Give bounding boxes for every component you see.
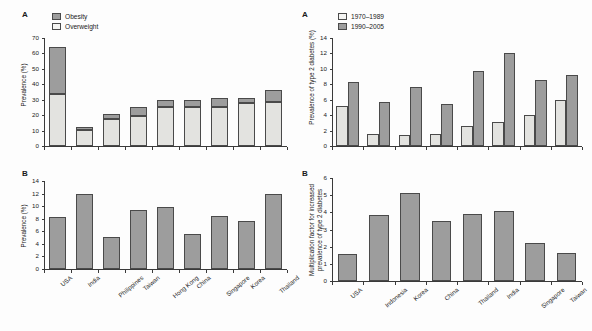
y-axis-tick-label: 12 — [308, 49, 327, 56]
bar — [504, 53, 516, 146]
y-axis-tick-label: 60 — [20, 49, 39, 56]
bar — [400, 193, 419, 281]
y-axis-label-right-a: Prevalence of type 2 diabetes (%) — [308, 10, 316, 145]
legend-item: 1990–2005 — [338, 21, 384, 31]
bar — [430, 134, 442, 146]
bar — [103, 237, 120, 269]
x-axis-tick — [71, 270, 72, 273]
x-axis-tick — [551, 147, 552, 150]
x-axis-tick — [287, 147, 288, 150]
legend-swatch-icon — [338, 23, 347, 30]
bar — [535, 80, 547, 146]
bar — [461, 126, 473, 146]
x-axis-category-label: Korea — [248, 274, 265, 290]
bar — [410, 87, 422, 146]
bar — [338, 254, 357, 281]
legend-swatch-icon — [52, 13, 61, 20]
x-axis-tick — [332, 147, 333, 150]
bar-segment — [49, 94, 67, 146]
x-axis-tick — [363, 282, 364, 285]
legend-label: Obesity — [65, 13, 87, 20]
y-axis-tick — [42, 69, 45, 70]
x-axis-tick — [551, 282, 552, 285]
bar-segment — [130, 107, 148, 115]
x-axis-tick — [457, 282, 458, 285]
y-axis-tick-label: 10 — [20, 202, 39, 209]
y-axis-tick — [42, 206, 45, 207]
y-axis-tick — [330, 247, 333, 248]
bar — [184, 234, 201, 269]
bar — [525, 243, 544, 281]
bar-segment — [238, 103, 256, 146]
bar — [524, 115, 536, 146]
y-axis-tick-label: 2 — [308, 243, 327, 250]
legend-label: Overweight — [65, 23, 98, 30]
x-axis-category-label: India — [86, 274, 101, 288]
bar — [399, 135, 411, 146]
y-axis-tick — [42, 53, 45, 54]
bar-segment — [49, 47, 67, 93]
y-axis-tick-label: 5 — [308, 191, 327, 198]
bar-segment — [265, 90, 283, 102]
y-axis-tick-label: 0 — [20, 142, 39, 149]
y-axis-tick — [42, 181, 45, 182]
bar-segment — [103, 114, 121, 119]
bar-segment — [157, 107, 175, 146]
y-axis-tick-label: 0 — [308, 142, 327, 149]
y-axis-tick-label: 20 — [20, 111, 39, 118]
y-axis-tick — [330, 131, 333, 132]
y-axis-tick — [42, 194, 45, 195]
x-axis-category-label: USA — [58, 274, 72, 288]
y-axis-tick — [42, 219, 45, 220]
x-axis-tick — [152, 270, 153, 273]
bar — [157, 207, 174, 269]
x-axis-tick — [426, 282, 427, 285]
x-axis-tick — [125, 147, 126, 150]
bar — [348, 82, 360, 146]
y-axis-tick-label: 6 — [308, 174, 327, 181]
panel-left-b: B Prevalence (%) 02468101214USAIndiaPhil… — [0, 166, 296, 331]
x-axis-tick — [582, 147, 583, 150]
y-axis-tick-label: 8 — [20, 215, 39, 222]
y-axis-tick — [42, 231, 45, 232]
bar — [432, 221, 451, 281]
y-axis-tick-label: 1 — [308, 260, 327, 267]
bar-segment — [103, 119, 121, 146]
y-axis-tick-label: 50 — [20, 65, 39, 72]
x-axis-category-label: Philippines — [117, 274, 144, 299]
bar — [494, 211, 513, 281]
x-axis-tick — [179, 147, 180, 150]
x-axis-category-label: Taiwan — [141, 274, 160, 292]
panel-letter-right-b: B — [302, 169, 308, 178]
bar — [555, 100, 567, 146]
bar-segment — [238, 98, 256, 103]
x-axis-tick — [260, 147, 261, 150]
bar — [265, 194, 282, 269]
y-axis-tick-label: 70 — [20, 34, 39, 41]
x-axis-tick — [395, 147, 396, 150]
legend-label: 1990–2005 — [351, 23, 384, 30]
x-axis-tick — [287, 270, 288, 273]
bar-segment — [265, 102, 283, 146]
y-axis-tick-label: 10 — [20, 127, 39, 134]
y-axis-tick — [330, 38, 333, 39]
x-axis-tick — [395, 282, 396, 285]
x-axis-category-label: Thailand — [476, 286, 499, 307]
bar-segment — [76, 130, 94, 146]
x-axis-tick — [426, 147, 427, 150]
bar-segment — [184, 107, 202, 146]
y-axis-tick-label: 30 — [20, 96, 39, 103]
x-axis-line — [44, 269, 287, 270]
x-axis-tick — [44, 147, 45, 150]
y-axis-tick-label: 3 — [308, 226, 327, 233]
y-axis-tick — [330, 69, 333, 70]
x-axis-tick — [98, 147, 99, 150]
bar-segment — [211, 98, 229, 107]
bar — [473, 71, 485, 146]
y-axis-line — [44, 38, 45, 146]
y-axis-tick — [330, 212, 333, 213]
x-axis-category-label: India — [505, 286, 520, 300]
bar — [463, 214, 482, 281]
y-axis-tick — [330, 230, 333, 231]
y-axis-tick — [330, 100, 333, 101]
